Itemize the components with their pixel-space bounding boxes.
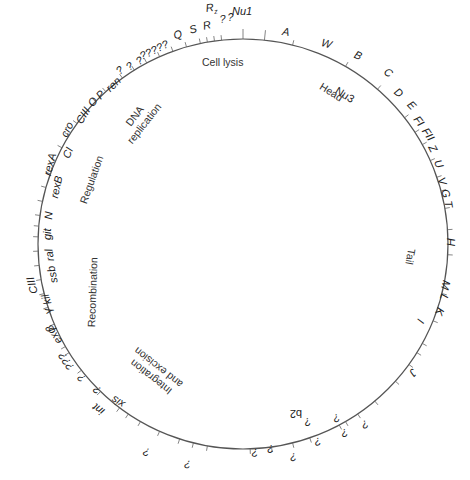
tick-mark (199, 39, 200, 44)
tick-mark (375, 401, 378, 405)
tick-mark (171, 47, 173, 52)
tick-mark (221, 35, 222, 40)
tick-mark (34, 265, 39, 266)
tick-mark (422, 343, 426, 345)
tick-mark (358, 414, 361, 418)
tick-mark (185, 42, 186, 47)
gene-label: Nu1 (232, 6, 252, 17)
gene-label: ? (219, 13, 226, 25)
tick-mark (192, 443, 193, 448)
tick-mark (61, 347, 65, 350)
region-label-line: Cell lysis (202, 56, 243, 68)
tick-mark (58, 145, 62, 147)
tick-mark (293, 40, 294, 45)
tick-mark (178, 439, 180, 444)
lambda-genetic-map-circle (0, 0, 470, 480)
tick-mark (310, 438, 312, 443)
tick-mark (38, 200, 43, 201)
tick-mark (433, 321, 438, 323)
tick-mark (207, 37, 208, 42)
gene-label: H (445, 238, 456, 246)
tick-mark (377, 86, 380, 90)
region-label: Recombination (85, 257, 99, 327)
gene-label: ? (227, 12, 234, 23)
tick-mark (293, 443, 294, 448)
gene-label: ? (267, 443, 274, 454)
tick-mark (41, 186, 46, 187)
region-label: Cell lysis (202, 56, 243, 68)
tick-mark (264, 30, 265, 40)
gene-label: A (281, 26, 290, 38)
gene-label: git (42, 228, 53, 240)
inner-gene-label: b2 (290, 408, 302, 419)
gene-label: N (43, 211, 55, 220)
tick-mark (35, 215, 40, 216)
tick-mark (405, 115, 409, 118)
gene-label: Rz (205, 1, 218, 16)
region-label-line: Recombination (85, 257, 99, 327)
gene-label: ? (184, 458, 191, 470)
tick-mark (207, 446, 208, 451)
tick-mark (395, 381, 399, 384)
tick-mark (346, 422, 349, 426)
tick-mark (138, 422, 141, 426)
tick-mark (214, 36, 215, 41)
tick-mark (417, 353, 421, 356)
tick-mark (415, 130, 419, 133)
tick-mark (158, 431, 160, 436)
tick-mark (126, 414, 129, 418)
tick-mark (102, 88, 105, 92)
tick-mark (346, 62, 349, 66)
gene-label: ral (43, 248, 56, 262)
gene-label: ? (251, 447, 258, 458)
